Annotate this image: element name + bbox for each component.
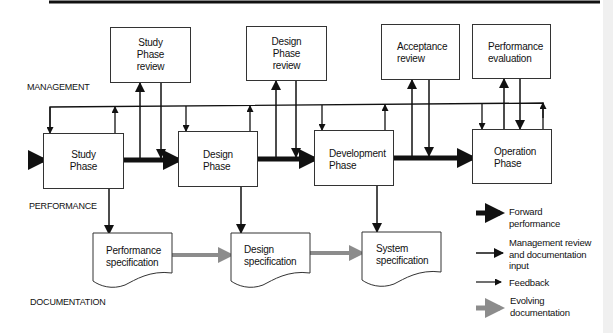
system-specification-label: System specification — [376, 243, 428, 267]
performance-specification-label: Performance specification — [106, 245, 161, 269]
legend-item-evolving-documentation: Evolving documentation — [510, 295, 570, 318]
legend-item-management-review: Management review and documentation inpu… — [509, 237, 591, 272]
development-phase-box: Development Phase — [314, 130, 394, 186]
study-phase-box: Study Phase — [43, 133, 124, 189]
legend-item-feedback: Feedback — [509, 277, 549, 289]
study-phase-review-box: Study Phase review — [110, 27, 191, 83]
acceptance-review-box: Acceptance review — [381, 24, 460, 80]
section-label-management: MANAGEMENT — [27, 82, 90, 92]
design-phase-box: Design Phase — [178, 131, 258, 187]
legend-item-forward-performance: Forward performance — [509, 206, 560, 229]
performance-evaluation-box: Performance evaluation — [472, 24, 551, 79]
section-label-performance: PERFORMANCE — [29, 201, 97, 211]
section-label-documentation: DOCUMENTATION — [30, 297, 106, 307]
design-phase-review-box: Design Phase review — [246, 26, 327, 81]
design-specification-label: Design specification — [244, 244, 296, 268]
operation-phase-box: Operation Phase — [472, 129, 552, 184]
